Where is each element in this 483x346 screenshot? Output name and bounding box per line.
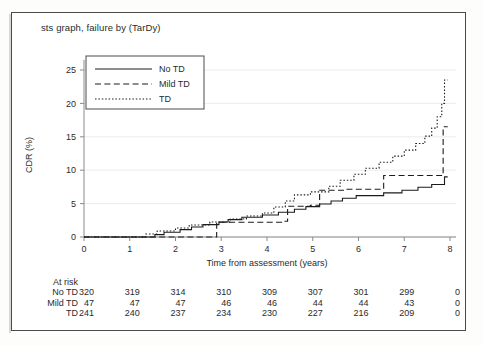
- at-risk-cell: 314: [170, 287, 185, 297]
- chart-canvas: 0510152025 012345678 No TDMild TDTD At r…: [0, 0, 483, 346]
- at-risk-cell: 0: [455, 308, 460, 318]
- legend-label: No TD: [159, 64, 185, 74]
- at-risk-cell: 47: [84, 298, 94, 308]
- y-tick-label: 5: [71, 199, 76, 209]
- x-axis: 012345678: [81, 237, 456, 254]
- at-risk-cell: 234: [216, 308, 231, 318]
- x-tick-label: 0: [81, 244, 86, 254]
- x-tick-label: 1: [127, 244, 132, 254]
- at-risk-cell: 310: [216, 287, 231, 297]
- legend-label: TD: [159, 94, 171, 104]
- at-risk-cell: 299: [399, 287, 414, 297]
- at-risk-cell: 46: [267, 298, 277, 308]
- at-risk-cell: 307: [308, 287, 323, 297]
- x-tick-label: 2: [173, 244, 178, 254]
- at-risk-cell: 241: [79, 308, 94, 318]
- at-risk-cell: 209: [399, 308, 414, 318]
- at-risk-cell: 47: [130, 298, 140, 308]
- at-risk-table: At riskNo TD3203193143103093073012990Mil…: [47, 277, 460, 318]
- at-risk-cell: 237: [170, 308, 185, 318]
- at-risk-cell: 44: [358, 298, 368, 308]
- at-risk-cell: 46: [221, 298, 231, 308]
- at-risk-cell: 47: [175, 298, 185, 308]
- x-tick-label: 8: [447, 244, 452, 254]
- at-risk-cell: 320: [79, 287, 94, 297]
- at-risk-cell: 319: [125, 287, 140, 297]
- y-tick-label: 20: [66, 99, 76, 109]
- at-risk-cell: 44: [313, 298, 323, 308]
- at-risk-cell: 0: [455, 287, 460, 297]
- figure-root: sts graph, failure by (TarDy) 0510152025…: [0, 0, 483, 346]
- at-risk-cell: 309: [262, 287, 277, 297]
- curve-mild-td: [84, 127, 448, 237]
- at-risk-cell: 216: [353, 308, 368, 318]
- x-tick-label: 4: [264, 244, 269, 254]
- chart-legend: No TDMild TDTD: [86, 56, 204, 109]
- at-risk-cell: 227: [308, 308, 323, 318]
- x-tick-label: 6: [356, 244, 361, 254]
- at-risk-cell: 301: [353, 287, 368, 297]
- y-tick-label: 0: [71, 232, 76, 242]
- x-tick-label: 5: [310, 244, 315, 254]
- y-axis: 0510152025: [66, 60, 84, 242]
- y-tick-label: 25: [66, 65, 76, 75]
- at-risk-row-label: TD: [66, 308, 78, 318]
- y-axis-title: CDR (%): [24, 137, 34, 173]
- at-risk-cell: 43: [404, 298, 414, 308]
- at-risk-cell: 0: [455, 298, 460, 308]
- x-tick-label: 7: [402, 244, 407, 254]
- curve-no-td: [84, 177, 448, 237]
- legend-label: Mild TD: [159, 79, 190, 89]
- at-risk-cell: 240: [125, 308, 140, 318]
- at-risk-cell: 230: [262, 308, 277, 318]
- y-tick-label: 15: [66, 132, 76, 142]
- at-risk-row-label: No TD: [52, 287, 78, 297]
- at-risk-row-label: Mild TD: [47, 298, 78, 308]
- at-risk-header: At risk: [53, 277, 79, 287]
- x-axis-title: Time from assessment (years): [206, 258, 327, 268]
- y-tick-label: 10: [66, 165, 76, 175]
- x-tick-label: 3: [219, 244, 224, 254]
